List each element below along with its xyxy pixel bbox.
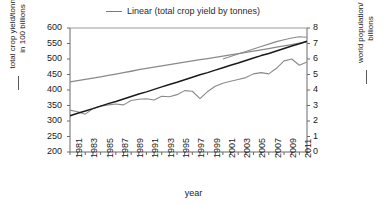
x-axis-tick-label: 1987	[120, 138, 130, 158]
right-axis-tick-label: 0	[313, 146, 323, 156]
right-axis-tick-label: 1	[313, 131, 323, 141]
x-axis-tick-label: 1989	[135, 138, 145, 158]
x-axis-tick-label: 1981	[74, 138, 84, 158]
x-axis-tick-label: 2011	[303, 139, 313, 158]
left-axis-tick-label: 200	[36, 146, 62, 156]
x-axis-tick-label: 2005	[257, 138, 267, 158]
left-axis-tick-label: 450	[36, 69, 62, 79]
right-axis-tick-label: 3	[313, 100, 323, 110]
x-axis-tick-label: 1999	[212, 138, 222, 158]
left-axis-tick-label: 250	[36, 131, 62, 141]
x-axis-tick-label: 2009	[288, 138, 298, 158]
series-line-linear-trendline	[70, 41, 307, 115]
series-line-crop-yield-upper-segment	[223, 37, 307, 59]
right-axis-tick-label: 2	[313, 115, 323, 125]
left-axis-tick-label: 550	[36, 38, 62, 48]
right-axis-tick-label: 8	[313, 22, 323, 32]
right-axis-tick-label: 7	[313, 38, 323, 48]
x-axis-tick-label: 2007	[273, 138, 283, 158]
x-axis-tick-label: 1983	[89, 138, 99, 158]
x-axis-tick-label: 2001	[227, 138, 237, 158]
right-axis-tick-label: 4	[313, 84, 323, 94]
chart-container: Linear (total crop yield by tonnes) tota…	[0, 0, 387, 205]
x-axis-tick-label: 1985	[105, 138, 115, 158]
x-axis-tick-label: 1995	[181, 138, 191, 158]
x-axis-tick-label: 1997	[196, 138, 206, 158]
x-axis-tick-label: 1991	[150, 138, 160, 158]
left-axis-tick-label: 300	[36, 115, 62, 125]
series-line-total-crop-yield	[70, 59, 307, 114]
left-axis-tick-label: 350	[36, 100, 62, 110]
right-axis-tick-label: 6	[313, 53, 323, 63]
left-axis-tick-label: 500	[36, 53, 62, 63]
x-axis-tick-label: 1993	[166, 138, 176, 158]
x-axis-tick-label: 2003	[242, 138, 252, 158]
left-axis-tick-label: 400	[36, 84, 62, 94]
series-line-world-population	[70, 42, 307, 82]
left-axis-tick-label: 600	[36, 22, 62, 32]
right-axis-tick-label: 5	[313, 69, 323, 79]
